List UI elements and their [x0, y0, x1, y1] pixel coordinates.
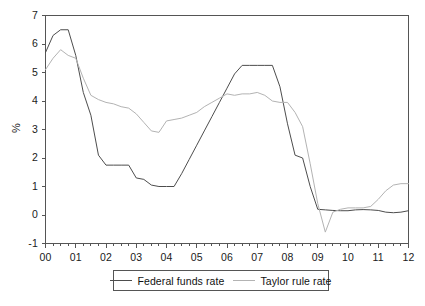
y-tick-label: 5: [6, 66, 38, 78]
x-tick-label: 03: [122, 251, 150, 263]
y-tick-label: 7: [6, 9, 38, 21]
legend-line-swatch: [110, 280, 132, 281]
legend-label: Federal funds rate: [137, 275, 224, 287]
legend-entry-federal-funds-rate[interactable]: Federal funds rate: [110, 275, 224, 287]
x-tick-label: 11: [364, 251, 392, 263]
y-tick-label: 6: [6, 37, 38, 49]
x-tick-label: 05: [183, 251, 211, 263]
x-tick-label: 02: [92, 251, 120, 263]
series-line-federal-funds-rate: [46, 30, 409, 213]
x-tick-label: 07: [243, 251, 271, 263]
y-tick-label: 4: [6, 94, 38, 106]
x-tick-label: 06: [213, 251, 241, 263]
y-tick-label: -1: [6, 237, 38, 249]
x-tick-label: 00: [32, 251, 60, 263]
x-tick-label: 04: [153, 251, 181, 263]
y-tick-label: 3: [6, 123, 38, 135]
chart-figure: % 76543210-1 00010203040506070809101112 …: [0, 0, 425, 306]
x-tick-label: 08: [274, 251, 302, 263]
x-tick-label: 10: [334, 251, 362, 263]
series-line-taylor-rule-rate: [46, 50, 409, 232]
data-series-group: [46, 30, 409, 232]
chart-legend: Federal funds rateTaylor rule rate: [113, 270, 329, 291]
x-tick-label: 01: [62, 251, 90, 263]
x-tick-label: 12: [395, 251, 423, 263]
y-tick-label: 0: [6, 208, 38, 220]
legend-line-swatch: [233, 280, 255, 281]
x-tick-label: 09: [304, 251, 332, 263]
legend-label: Taylor rule rate: [260, 275, 331, 287]
legend-entry-taylor-rule-rate[interactable]: Taylor rule rate: [233, 275, 331, 287]
plot-frame: [46, 16, 409, 244]
axis-ticks: [42, 16, 409, 249]
y-tick-label: 1: [6, 180, 38, 192]
y-tick-label: 2: [6, 151, 38, 163]
